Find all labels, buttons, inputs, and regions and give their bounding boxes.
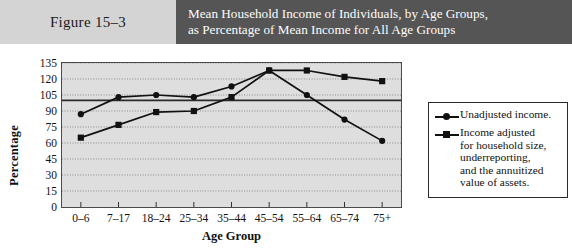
x-tick-label: 7–17 — [107, 212, 130, 224]
data-point — [266, 67, 272, 73]
legend-item-adjusted: Income adjusted for household size, unde… — [434, 126, 562, 189]
data-point — [379, 138, 385, 144]
data-point — [115, 122, 121, 128]
x-tick-label: 75+ — [373, 212, 391, 224]
legend-line: Income adjusted — [460, 126, 546, 139]
chart-legend: Unadjusted income. Income adjusted for h… — [428, 102, 568, 198]
y-tick-label: 75 — [29, 121, 57, 133]
x-tick-label: 35–44 — [217, 212, 246, 224]
y-tick-label: 135 — [29, 57, 57, 69]
series-line-1 — [81, 70, 382, 137]
x-tick-label: 25–34 — [179, 212, 208, 224]
data-point — [228, 94, 234, 100]
legend-line: Unadjusted income. — [460, 108, 551, 121]
legend-label-adjusted: Income adjusted for household size, unde… — [460, 126, 546, 189]
legend-label-unadjusted: Unadjusted income. — [460, 108, 551, 121]
legend-item-unadjusted: Unadjusted income. — [434, 108, 562, 124]
y-axis-tick-labels: 0153045607590105120135 — [25, 62, 57, 208]
legend-marker-circle-icon — [434, 110, 460, 124]
data-point — [341, 116, 347, 122]
y-tick-label: 45 — [29, 153, 57, 165]
y-tick-label: 15 — [29, 185, 57, 197]
x-tick-label: 45–54 — [255, 212, 284, 224]
figure-number-label: Figure 15–3 — [50, 14, 126, 31]
legend-line: underreporting, — [460, 151, 546, 164]
figure-title-band: Mean Household Income of Individuals, by… — [176, 0, 572, 44]
figure-title-line-1: Mean Household Income of Individuals, by… — [188, 6, 572, 22]
x-axis-title: Age Group — [61, 229, 402, 244]
data-point — [379, 78, 385, 84]
data-point — [191, 108, 197, 114]
data-point — [341, 74, 347, 80]
x-tick-label: 0–6 — [72, 212, 89, 224]
data-point — [153, 109, 159, 115]
figure-title-line-2: as Percentage of Mean Income for All Age… — [188, 22, 572, 38]
legend-line: for household size, — [460, 139, 546, 152]
data-point — [78, 135, 84, 141]
y-tick-label: 90 — [29, 105, 57, 117]
data-point — [191, 94, 197, 100]
y-tick-label: 105 — [29, 89, 57, 101]
chart-container: Percentage 0153045607590105120135 0–67–1… — [0, 44, 572, 252]
y-tick-label: 60 — [29, 137, 57, 149]
plot-area — [61, 62, 402, 208]
x-tick-label: 65–74 — [330, 212, 359, 224]
data-point — [115, 94, 121, 100]
series-canvas — [62, 63, 401, 207]
figure-number-band: Figure 15–3 — [0, 0, 176, 44]
y-tick-label: 120 — [29, 73, 57, 85]
data-point — [153, 92, 159, 98]
legend-marker-square-icon — [434, 128, 460, 142]
x-axis-tick-labels: 0–67–1718–2425–3435–4445–5455–6465–7475+ — [61, 210, 402, 228]
y-tick-label: 0 — [29, 201, 57, 213]
data-point — [78, 111, 84, 117]
data-point — [304, 67, 310, 73]
data-point — [228, 83, 234, 89]
figure-header: Figure 15–3 Mean Household Income of Ind… — [0, 0, 572, 44]
data-point — [304, 92, 310, 98]
series-line-0 — [81, 70, 382, 140]
y-tick-label: 30 — [29, 169, 57, 181]
y-axis-title: Percentage — [7, 111, 22, 201]
legend-line: value of assets. — [460, 176, 546, 189]
x-tick-label: 18–24 — [142, 212, 171, 224]
legend-line: and the annuitized — [460, 164, 546, 177]
x-tick-label: 55–64 — [292, 212, 321, 224]
